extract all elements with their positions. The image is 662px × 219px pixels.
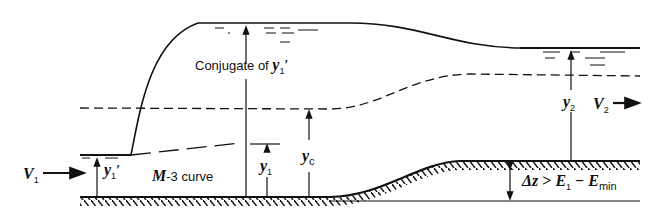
subscript: min bbox=[599, 180, 617, 192]
subscript: 2 bbox=[604, 105, 609, 115]
delta-z-text: Δz bbox=[522, 172, 542, 189]
critical-depth-line bbox=[80, 74, 640, 109]
subscript: 1 bbox=[267, 167, 272, 177]
delta-z-label: Δz > E1 − Emin bbox=[522, 173, 617, 192]
v-symbol: V bbox=[593, 95, 604, 112]
y1-label: y1 bbox=[260, 158, 272, 177]
v-symbol: V bbox=[23, 165, 34, 182]
conjugate-label: Conjugate of y1′ bbox=[195, 57, 288, 76]
v1-label: V1 bbox=[23, 166, 39, 185]
subscript: c bbox=[309, 155, 315, 167]
conjugate-text: Conjugate of bbox=[195, 58, 272, 73]
minus-sign: − bbox=[571, 172, 588, 189]
m3-curve-label: M-3 curve bbox=[152, 168, 213, 184]
yc-label: yc bbox=[302, 148, 315, 167]
m-letter: M bbox=[152, 167, 166, 184]
greater-than: > bbox=[542, 172, 555, 189]
conjugate-symbol: y1′ bbox=[272, 56, 288, 73]
v2-label: V2 bbox=[593, 96, 609, 115]
emin-symbol: E bbox=[588, 172, 599, 189]
m3-text: -3 curve bbox=[166, 169, 213, 184]
prime: ′ bbox=[284, 58, 288, 73]
m3-curve-line bbox=[131, 143, 240, 155]
subscript: 1 bbox=[34, 175, 39, 185]
water-surface bbox=[80, 23, 640, 158]
e1-symbol: E bbox=[555, 172, 566, 189]
y1-prime-label: y1′ bbox=[104, 162, 120, 181]
subscript: 2 bbox=[570, 103, 575, 113]
y2-label: y2 bbox=[563, 94, 575, 113]
prime: ′ bbox=[116, 163, 120, 178]
